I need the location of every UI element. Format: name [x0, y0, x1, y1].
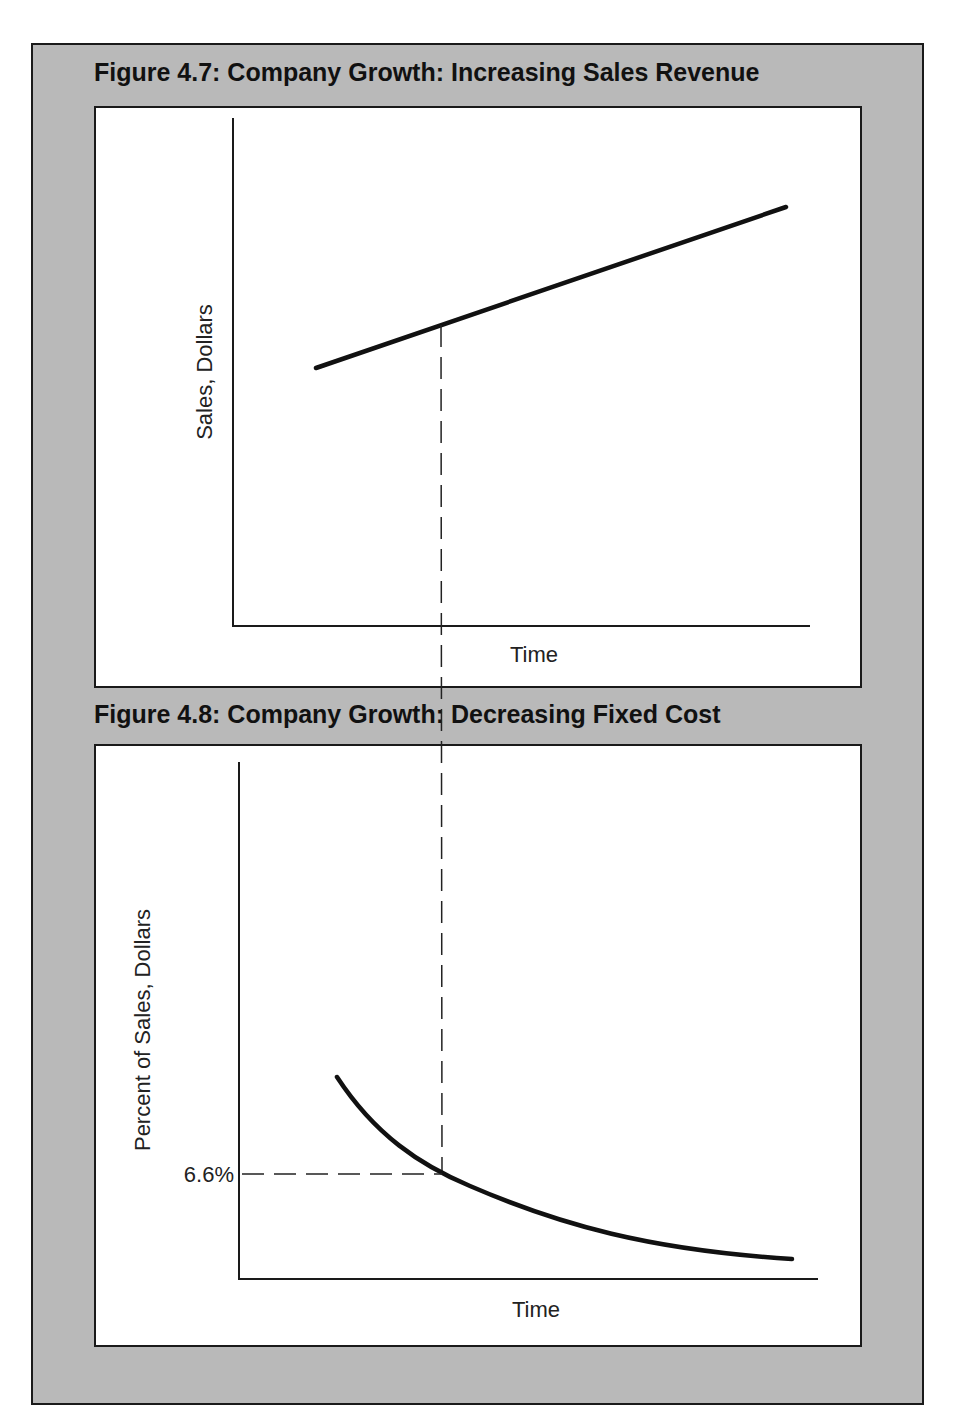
sales-revenue-line — [316, 207, 786, 368]
value-annotation: 6.6% — [184, 1162, 234, 1187]
charts-svg: Sales, Dollars Time 6.6% Percent of Sale… — [0, 0, 959, 1415]
y-axis-label: Sales, Dollars — [192, 304, 217, 440]
x-axis-label: Time — [510, 642, 558, 667]
fixed-cost-curve — [337, 1077, 792, 1259]
time-reference-dashed-line — [441, 325, 442, 1173]
x-axis-label: Time — [512, 1297, 560, 1322]
figure-4-7-chart: Sales, Dollars Time — [192, 118, 810, 667]
figure-4-8-chart: 6.6% Percent of Sales, Dollars Time — [130, 762, 818, 1322]
y-axis-label: Percent of Sales, Dollars — [130, 909, 155, 1151]
